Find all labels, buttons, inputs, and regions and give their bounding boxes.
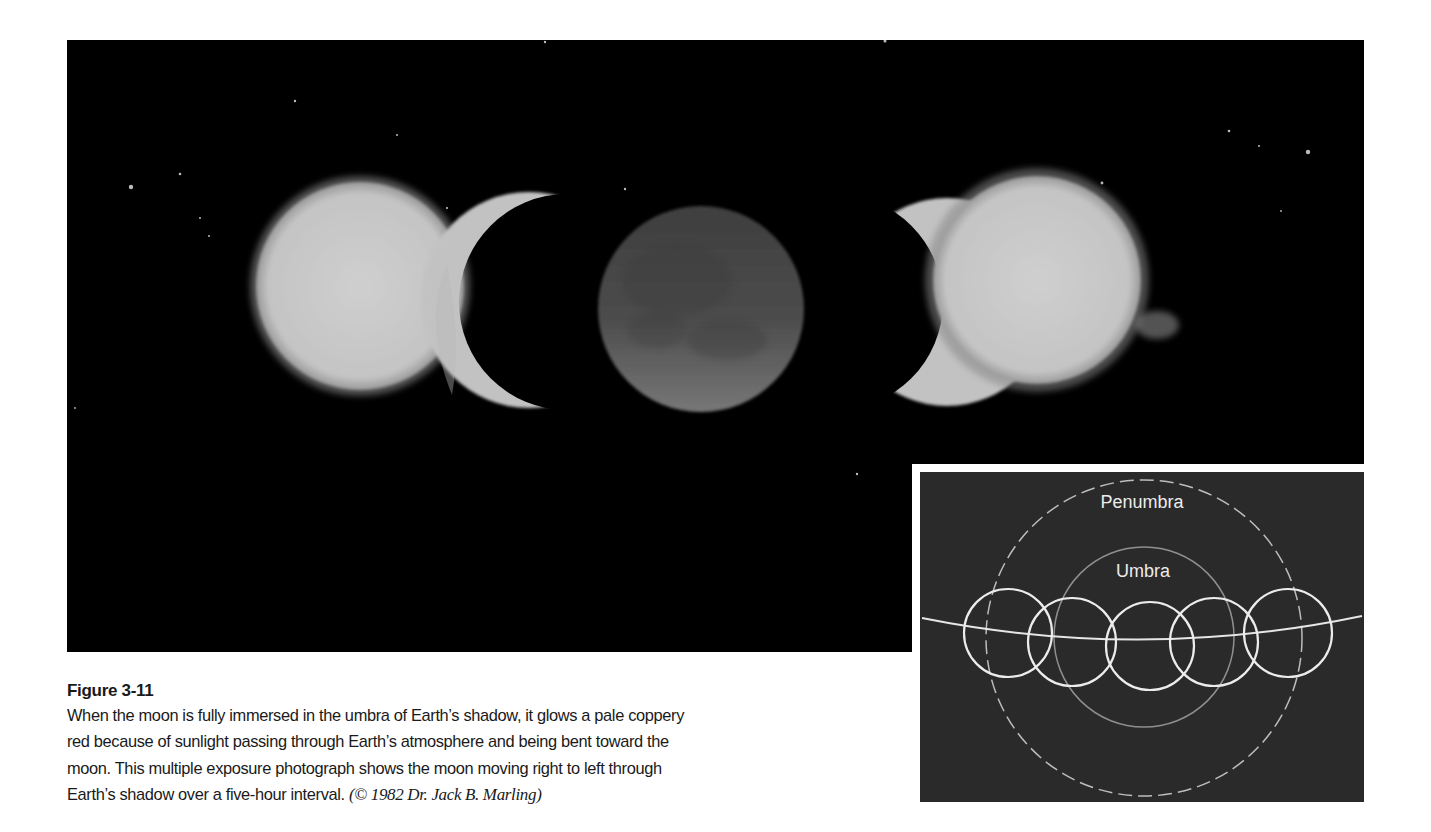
caption-line-text: Earth’s shadow over a five-hour interval… <box>67 785 345 803</box>
shadow-diagram: Penumbra Umbra <box>920 472 1364 802</box>
caption-line: red because of sunlight passing through … <box>67 728 887 754</box>
caption-line: Earth’s shadow over a five-hour interval… <box>67 781 887 808</box>
figure-caption: Figure 3-11 When the moon is fully immer… <box>67 680 887 809</box>
caption-line: When the moon is fully immersed in the u… <box>67 702 887 728</box>
moon-full-right <box>925 168 1179 392</box>
caption-line: moon. This multiple exposure photograph … <box>67 755 887 781</box>
umbra-label: Umbra <box>1116 561 1171 581</box>
figure-title: Figure 3-11 <box>67 680 887 702</box>
penumbra-circle <box>986 480 1302 796</box>
photo-credit: (© 1982 Dr. Jack B. Marling) <box>349 785 541 804</box>
moon-total-eclipse <box>598 206 804 412</box>
penumbra-label: Penumbra <box>1100 492 1184 512</box>
figure-caption-body: When the moon is fully immersed in the u… <box>67 702 887 809</box>
shadow-diagram-inset: Penumbra Umbra <box>920 472 1364 802</box>
moon-path <box>922 616 1362 640</box>
